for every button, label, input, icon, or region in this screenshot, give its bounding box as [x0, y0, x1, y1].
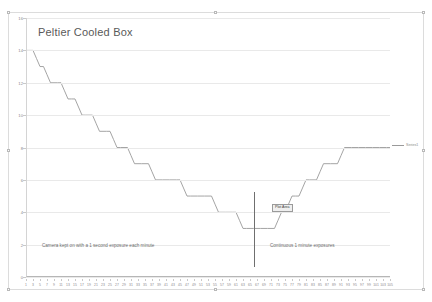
x-axis-tick-label-35: 35 — [143, 283, 147, 287]
x-axis-tick-label-33: 33 — [136, 283, 140, 287]
x-axis-tick-label-59: 59 — [227, 283, 231, 287]
x-axis-tick-label-27: 27 — [115, 283, 119, 287]
gridline-y-4 — [26, 212, 390, 213]
x-axis-tick-mark-63 — [243, 279, 244, 281]
x-axis-tick-mark-51 — [201, 279, 202, 281]
x-axis-tick-mark-91 — [341, 279, 342, 281]
x-axis-tick-label-71: 71 — [269, 283, 273, 287]
x-axis-tick-mark-59 — [229, 279, 230, 281]
x-axis-tick-label-65: 65 — [248, 283, 252, 287]
x-axis-tick-label-7: 7 — [46, 283, 48, 287]
x-axis-tick-label-15: 15 — [73, 283, 77, 287]
annotation-left: Camera kept on with a 1 second exposure … — [42, 243, 154, 248]
x-axis-tick-mark-83 — [313, 279, 314, 281]
resize-handle-top-center[interactable] — [214, 11, 217, 14]
x-axis-tick-label-17: 17 — [80, 283, 84, 287]
x-axis-tick-mark-25 — [110, 279, 111, 281]
x-axis-tick-mark-13 — [68, 279, 69, 281]
x-axis-tick-label-9: 9 — [53, 283, 55, 287]
x-axis-tick-mark-19 — [89, 279, 90, 281]
x-axis-tick-label-91: 91 — [339, 283, 343, 287]
x-axis-tick-mark-3 — [33, 279, 34, 281]
x-axis-tick-label-19: 19 — [87, 283, 91, 287]
x-axis-tick-label-105: 105 — [387, 283, 393, 287]
x-axis-tick-label-97: 97 — [360, 283, 364, 287]
x-axis-tick-mark-15 — [75, 279, 76, 281]
x-axis-tick-mark-47 — [187, 279, 188, 281]
x-axis-tick-label-73: 73 — [276, 283, 280, 287]
x-axis-tick-label-69: 69 — [262, 283, 266, 287]
x-axis-tick-mark-39 — [159, 279, 160, 281]
x-axis-tick-label-53: 53 — [206, 283, 210, 287]
x-axis-tick-mark-101 — [376, 279, 377, 281]
x-axis-tick-label-61: 61 — [234, 283, 238, 287]
x-axis-tick-label-21: 21 — [94, 283, 98, 287]
x-axis-tick-label-79: 79 — [297, 283, 301, 287]
x-axis-tick-label-49: 49 — [192, 283, 196, 287]
gridline-y-8 — [26, 148, 390, 149]
x-axis-tick-label-93: 93 — [346, 283, 350, 287]
x-axis-tick-mark-103 — [383, 279, 384, 281]
x-axis-tick-mark-95 — [355, 279, 356, 281]
x-axis-tick-mark-105 — [390, 279, 391, 281]
resize-handle-top-right[interactable] — [422, 11, 425, 14]
plot-area[interactable] — [26, 18, 390, 277]
x-axis-tick-label-67: 67 — [255, 283, 259, 287]
x-axis-tick-label-57: 57 — [220, 283, 224, 287]
x-axis-tick-mark-27 — [117, 279, 118, 281]
x-axis-tick-mark-37 — [152, 279, 153, 281]
gridline-y-12 — [26, 83, 390, 84]
legend-label: Series1 — [406, 143, 418, 147]
x-axis-tick-mark-1 — [26, 279, 27, 281]
x-axis-tick-label-89: 89 — [332, 283, 336, 287]
x-axis-tick-label-31: 31 — [129, 283, 133, 287]
x-axis-tick-label-39: 39 — [157, 283, 161, 287]
x-axis-tick-mark-45 — [180, 279, 181, 281]
x-axis-tick-mark-9 — [54, 279, 55, 281]
x-axis-tick-mark-77 — [292, 279, 293, 281]
x-axis-tick-label-55: 55 — [213, 283, 217, 287]
x-axis-tick-label-75: 75 — [283, 283, 287, 287]
x-axis-tick-label-43: 43 — [171, 283, 175, 287]
x-axis-tick-mark-7 — [47, 279, 48, 281]
resize-handle-top-left[interactable] — [7, 11, 10, 14]
x-axis-tick-label-99: 99 — [367, 283, 371, 287]
x-axis-tick-mark-21 — [96, 279, 97, 281]
x-axis-tick-label-11: 11 — [59, 283, 63, 287]
chart-legend[interactable]: Series1 — [392, 143, 418, 147]
series1-line-swatch — [392, 145, 404, 146]
x-axis-tick-mark-65 — [250, 279, 251, 281]
phase-divider-line — [254, 192, 255, 267]
x-axis-tick-label-25: 25 — [108, 283, 112, 287]
x-axis-tick-label-63: 63 — [241, 283, 245, 287]
x-axis-tick-mark-55 — [215, 279, 216, 281]
resize-handle-middle-right[interactable] — [422, 149, 425, 152]
x-axis-tick-mark-43 — [173, 279, 174, 281]
x-axis-tick-label-41: 41 — [164, 283, 168, 287]
x-axis-tick-mark-41 — [166, 279, 167, 281]
x-axis-tick-mark-57 — [222, 279, 223, 281]
x-axis-tick-label-47: 47 — [185, 283, 189, 287]
x-axis-tick-label-23: 23 — [101, 283, 105, 287]
x-axis-tick-mark-33 — [138, 279, 139, 281]
x-axis-tick-mark-61 — [236, 279, 237, 281]
x-axis-tick-mark-73 — [278, 279, 279, 281]
x-axis-tick-label-45: 45 — [178, 283, 182, 287]
x-axis-tick-mark-69 — [264, 279, 265, 281]
x-axis-tick-mark-75 — [285, 279, 286, 281]
gridline-y-16 — [26, 18, 390, 19]
x-axis-tick-mark-71 — [271, 279, 272, 281]
resize-handle-bottom-left[interactable] — [7, 288, 10, 291]
x-axis-tick-mark-87 — [327, 279, 328, 281]
x-axis-tick-mark-53 — [208, 279, 209, 281]
x-axis-tick-mark-17 — [82, 279, 83, 281]
plot-area-label: Plot Area — [272, 204, 293, 212]
resize-handle-bottom-right[interactable] — [422, 288, 425, 291]
x-axis-tick-mark-79 — [299, 279, 300, 281]
x-axis-tick-label-51: 51 — [199, 283, 203, 287]
x-axis-tick-label-103: 103 — [380, 283, 386, 287]
x-axis[interactable]: 1357911131517192123252729313335373941434… — [26, 279, 390, 295]
x-axis-tick-label-87: 87 — [325, 283, 329, 287]
x-axis-tick-label-13: 13 — [66, 283, 70, 287]
y-axis[interactable]: 0246810121416 — [0, 18, 23, 277]
